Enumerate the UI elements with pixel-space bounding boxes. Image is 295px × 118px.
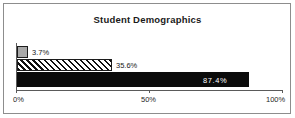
bar-label-series-2: 35.6% bbox=[116, 61, 137, 70]
x-axis-tick-50 bbox=[149, 90, 150, 93]
bar-chart-figure: Student Demographics 0% 50% 100% 3.7% 35… bbox=[0, 0, 295, 118]
x-axis-tick-label-0: 0% bbox=[13, 95, 24, 104]
bar-series-1 bbox=[17, 46, 28, 58]
chart-title: Student Demographics bbox=[0, 14, 295, 25]
x-axis-tick-0 bbox=[16, 90, 17, 93]
bar-series-2 bbox=[17, 59, 112, 71]
bar-label-series-1: 3.7% bbox=[32, 48, 49, 57]
x-axis-tick-label-100: 100% bbox=[266, 95, 285, 104]
x-axis-tick-label-50: 50% bbox=[141, 95, 156, 104]
bar-label-series-3: 87.4% bbox=[203, 76, 227, 85]
x-axis-tick-100 bbox=[282, 90, 283, 93]
